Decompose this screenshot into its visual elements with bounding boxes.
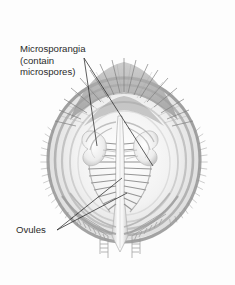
microsporangia-label-line-3: microspores): [20, 66, 75, 77]
microsporangia-label-line-2: (contain: [20, 55, 54, 66]
botanical-diagram-figure: Microsporangia (contain microspores) Ovu…: [0, 0, 235, 285]
ovules-label: Ovules: [16, 224, 46, 235]
diagram-canvas: Microsporangia (contain microspores) Ovu…: [0, 0, 235, 285]
ovules-label-line-1: Ovules: [16, 224, 46, 235]
microsporangia-label-line-1: Microsporangia: [20, 43, 86, 54]
